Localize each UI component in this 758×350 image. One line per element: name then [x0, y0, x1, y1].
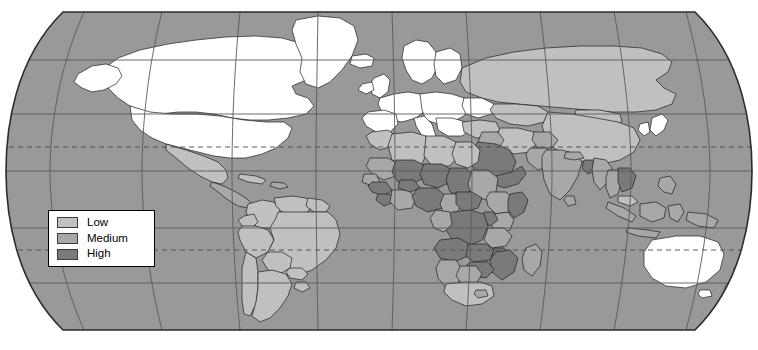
legend-label-high: High: [87, 248, 111, 260]
legend-label-low: Low: [87, 217, 108, 229]
map-body: [0, 0, 758, 350]
world-map-figure: Low Medium High: [0, 0, 758, 350]
legend-swatch-high: [57, 249, 78, 260]
legend-swatch-medium: [57, 233, 78, 244]
legend-item-medium: Medium: [57, 232, 154, 246]
country-nepal: [564, 152, 584, 160]
legend-swatch-low: [57, 217, 78, 228]
world-map-svg: [0, 0, 758, 350]
legend-item-low: Low: [57, 216, 154, 230]
legend-item-high: High: [57, 247, 154, 261]
map-legend: Low Medium High: [48, 210, 155, 267]
legend-label-medium: Medium: [87, 233, 128, 245]
